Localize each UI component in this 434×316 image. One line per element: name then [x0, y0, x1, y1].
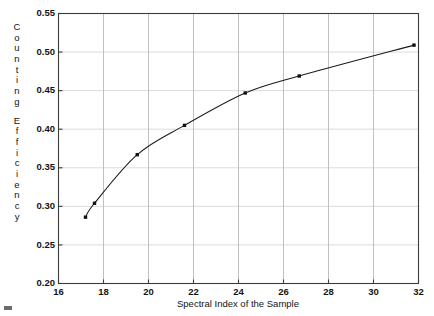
data-curve	[86, 45, 415, 217]
data-point-marker	[93, 202, 96, 205]
x-axis-title: Spectral Index of the Sample	[58, 298, 418, 309]
x-tick-label: 28	[314, 286, 344, 297]
x-tick-label: 24	[224, 286, 254, 297]
x-tick-label: 30	[359, 286, 389, 297]
data-point-marker	[244, 91, 247, 94]
gridlines	[59, 14, 419, 284]
data-point-marker	[84, 215, 87, 218]
data-point-marker	[298, 74, 301, 77]
data-markers	[84, 43, 416, 218]
data-point-marker	[183, 124, 186, 127]
chart-figure: C o u n t i n g E f f i c i e n c y 0.20…	[0, 0, 434, 316]
data-point-marker	[412, 43, 415, 46]
x-tick-label: 22	[179, 286, 209, 297]
data-point-marker	[136, 153, 139, 156]
x-tick-label: 18	[89, 286, 119, 297]
x-tick-label: 20	[134, 286, 164, 297]
x-tick-label: 32	[404, 286, 434, 297]
x-tick-label: 16	[44, 286, 74, 297]
x-tick-label: 26	[269, 286, 299, 297]
plot-area	[0, 0, 434, 316]
scan-artifact-mark	[4, 306, 12, 310]
